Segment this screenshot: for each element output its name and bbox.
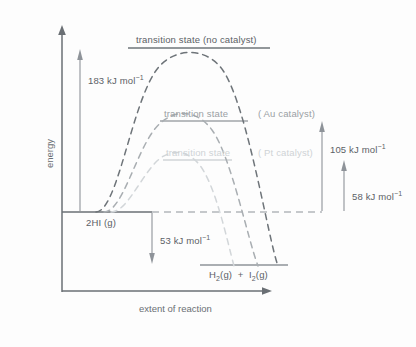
x-axis-arrowhead: [262, 287, 272, 295]
product-formula-i2: I2(g): [249, 269, 268, 280]
measurement-value-105: 105: [330, 144, 346, 155]
product-level-label: H2(g) + I2(g): [209, 269, 268, 280]
transition-state-label-pt: transition state: [166, 147, 230, 158]
measurement-label-53: 53 kJ mol−1: [160, 235, 210, 246]
catalyst-label-pt: ( Pt catalyst): [258, 147, 313, 158]
arrow-53: [149, 213, 155, 264]
energy-profile-diagram: energy extent of reaction transition sta…: [0, 0, 416, 347]
measurement-exponent-58: −1: [394, 190, 402, 197]
arrow-58: [341, 160, 347, 211]
transition-state-label-no-catalyst: transition state (no catalyst): [136, 34, 257, 45]
product-formula-h2: H2(g): [209, 269, 232, 280]
y-axis-label: energy: [44, 139, 55, 168]
measurement-value-58: 58: [352, 191, 363, 202]
arrow-183: [77, 49, 83, 211]
measurement-value-183: 183: [88, 75, 104, 86]
measurement-unit-58: kJ mol: [366, 191, 394, 202]
x-axis-label: extent of reaction: [139, 303, 212, 314]
measurement-label-183: 183 kJ mol−1: [88, 75, 144, 86]
arrow-105: [319, 121, 325, 211]
y-axis-arrowhead: [58, 25, 66, 35]
measurement-label-58: 58 kJ mol−1: [352, 191, 402, 202]
measurement-unit-53: kJ mol: [174, 235, 202, 246]
transition-state-label-au: transition state: [164, 108, 228, 119]
reaction-curve-pt-catalyst: [111, 153, 234, 267]
measurement-unit-105: kJ mol: [349, 144, 377, 155]
diagram-canvas: [0, 0, 416, 347]
product-formula-plus: +: [235, 269, 246, 280]
reactant-level-label: 2HI (g): [86, 217, 116, 228]
measurement-exponent-53: −1: [202, 234, 210, 241]
measurement-value-53: 53: [160, 235, 171, 246]
measurement-exponent-183: −1: [135, 74, 143, 81]
catalyst-label-au: ( Au catalyst): [258, 108, 315, 119]
measurement-label-105: 105 kJ mol−1: [330, 144, 386, 155]
measurement-exponent-105: −1: [377, 143, 385, 150]
measurement-unit-183: kJ mol: [107, 75, 135, 86]
